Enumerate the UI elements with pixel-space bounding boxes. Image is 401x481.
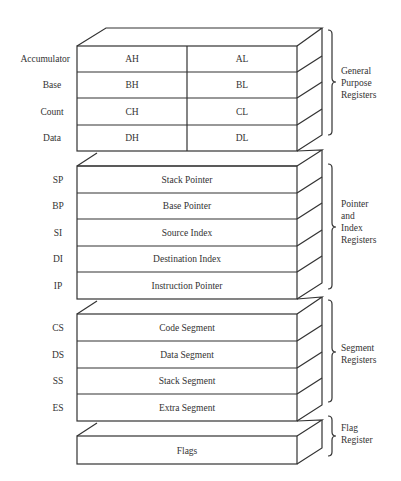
row-label: Accumulator: [20, 54, 70, 64]
svg-text:and: and: [341, 211, 355, 221]
register-cell: DL: [236, 133, 249, 143]
row-label: SS: [53, 376, 64, 386]
block-flags: [77, 420, 322, 464]
row-label: DS: [52, 350, 64, 360]
register-cell: Destination Index: [153, 254, 221, 264]
row-label: IP: [54, 281, 62, 291]
group-label-general: General Purpose Registers: [341, 66, 377, 100]
register-cell: Flags: [177, 446, 198, 456]
register-cell: Base Pointer: [163, 201, 212, 211]
group-label-segment: Segment Registers: [341, 343, 377, 365]
row-label: DI: [53, 254, 63, 264]
register-cell: CH: [125, 107, 138, 117]
row-label: Count: [40, 107, 64, 117]
block-pointer-index: [77, 150, 322, 299]
register-cell: Stack Pointer: [162, 175, 214, 185]
register-cell: Stack Segment: [159, 376, 216, 386]
svg-text:Flag: Flag: [341, 423, 358, 433]
svg-text:Pointer: Pointer: [341, 199, 369, 209]
svg-text:General: General: [341, 66, 371, 76]
row-label: CS: [52, 323, 64, 333]
group-label-pointer: Pointer and Index Registers: [341, 199, 377, 245]
svg-text:Register: Register: [341, 435, 373, 445]
brace-pointer: [328, 164, 336, 289]
group-label-flag: Flag Register: [341, 423, 373, 445]
register-cell: Instruction Pointer: [152, 281, 224, 291]
brace-flag: [328, 416, 336, 456]
brace-general: [328, 30, 336, 135]
register-cell: BL: [236, 80, 248, 90]
register-cell: AL: [236, 54, 249, 64]
brace-segment: [328, 300, 336, 402]
svg-text:Registers: Registers: [341, 355, 377, 365]
register-cell: AH: [125, 54, 139, 64]
row-label: ES: [52, 403, 63, 413]
register-cell: Source Index: [162, 228, 213, 238]
svg-text:Registers: Registers: [341, 235, 377, 245]
svg-text:Registers: Registers: [341, 90, 377, 100]
register-cell: BH: [125, 80, 138, 90]
register-diagram: Accumulator Base Count Data AH BH CH DH …: [0, 0, 401, 481]
row-label: SP: [53, 175, 64, 185]
row-label: Data: [43, 133, 62, 143]
svg-text:Index: Index: [341, 223, 363, 233]
block-general-purpose: [77, 28, 322, 151]
register-cell: Extra Segment: [159, 403, 216, 413]
register-cell: Data Segment: [160, 350, 214, 360]
svg-text:Segment: Segment: [341, 343, 375, 353]
register-cell: DH: [125, 133, 139, 143]
svg-text:Purpose: Purpose: [341, 78, 372, 88]
register-cell: CL: [236, 107, 248, 117]
row-label: SI: [54, 228, 62, 238]
row-label: Base: [43, 80, 61, 90]
row-label: BP: [52, 201, 64, 211]
register-cell: Code Segment: [159, 323, 215, 333]
